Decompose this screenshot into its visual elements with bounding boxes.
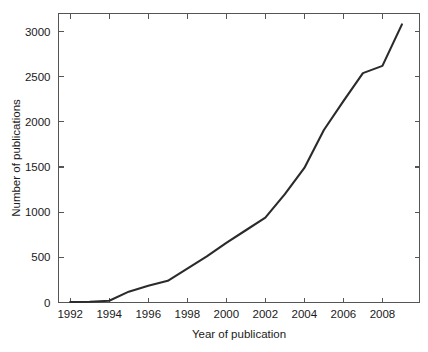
y-tick-label: 500	[31, 251, 50, 263]
x-tick-label: 2006	[331, 308, 357, 320]
x-tick-label: 1996	[135, 308, 161, 320]
x-tick-label: 1998	[174, 308, 200, 320]
y-tick-label: 1500	[25, 161, 51, 173]
y-axis-title: Number of publications	[10, 99, 22, 217]
x-axis-title: Year of publication	[192, 328, 286, 340]
x-axis-tick-labels: 199219941996199820002002200420062008	[57, 308, 395, 320]
x-tick-label: 1994	[96, 308, 122, 320]
y-tick-label: 3000	[25, 26, 51, 38]
x-tick-label: 1992	[57, 308, 83, 320]
figure-background	[0, 0, 428, 352]
chart-figure: 050010001500200025003000 199219941996199…	[0, 0, 428, 352]
line-chart: 050010001500200025003000 199219941996199…	[0, 0, 428, 352]
y-tick-label: 1000	[25, 206, 51, 218]
x-tick-label: 2004	[292, 308, 318, 320]
x-tick-label: 2000	[214, 308, 240, 320]
y-tick-label: 2000	[25, 116, 51, 128]
x-tick-label: 2008	[370, 308, 396, 320]
y-tick-label: 2500	[25, 71, 51, 83]
y-tick-label: 0	[44, 297, 50, 309]
x-tick-label: 2002	[253, 308, 279, 320]
